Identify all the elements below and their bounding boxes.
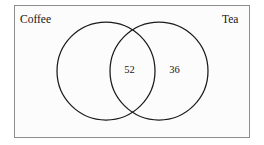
coffee-set-label: Coffee [20,14,51,26]
tea-set-label: Tea [222,14,238,26]
intersection-count-label: 52 [120,65,139,76]
tea-only-count-label: 36 [165,65,184,76]
coffee-set-circle [57,22,155,120]
venn-diagram-figure: Coffee Tea 52 36 [0,0,264,145]
